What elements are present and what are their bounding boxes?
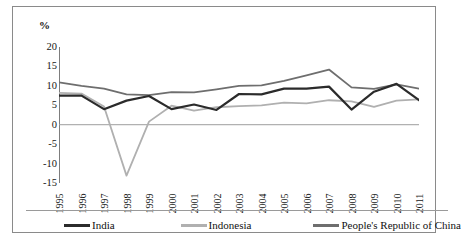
legend-label: Indonesia [209,219,252,231]
plot-area [59,47,419,183]
y-tick-label: -15 [33,178,57,188]
legend-label: People's Republic of China [341,219,461,231]
legend-swatch [64,224,90,227]
chart-frame: % 20151050-5-10-15 199519961997199819992… [12,6,436,233]
y-tick-label: 10 [33,81,57,91]
legend-divider [26,210,448,211]
y-tick-label: 15 [33,61,57,71]
y-tick-label: -5 [33,139,57,149]
y-axis-tick-labels: 20151050-5-10-15 [27,47,57,183]
legend-item[interactable]: India [64,219,115,231]
legend-label: India [92,219,115,231]
y-axis-unit-label: % [39,19,50,31]
legend-swatch [313,224,339,227]
legend-item[interactable]: People's Republic of China [313,219,461,231]
legend-item[interactable]: Indonesia [181,219,252,231]
y-tick-label: 20 [33,42,57,52]
legend-swatch [181,224,207,227]
y-tick-label: -10 [33,159,57,169]
series-line [59,70,419,96]
y-tick-label: 5 [33,100,57,110]
series-lines [59,47,419,183]
chart-legend: IndiaIndonesiaPeople's Republic of China [26,213,448,237]
y-tick-label: 0 [33,120,57,130]
